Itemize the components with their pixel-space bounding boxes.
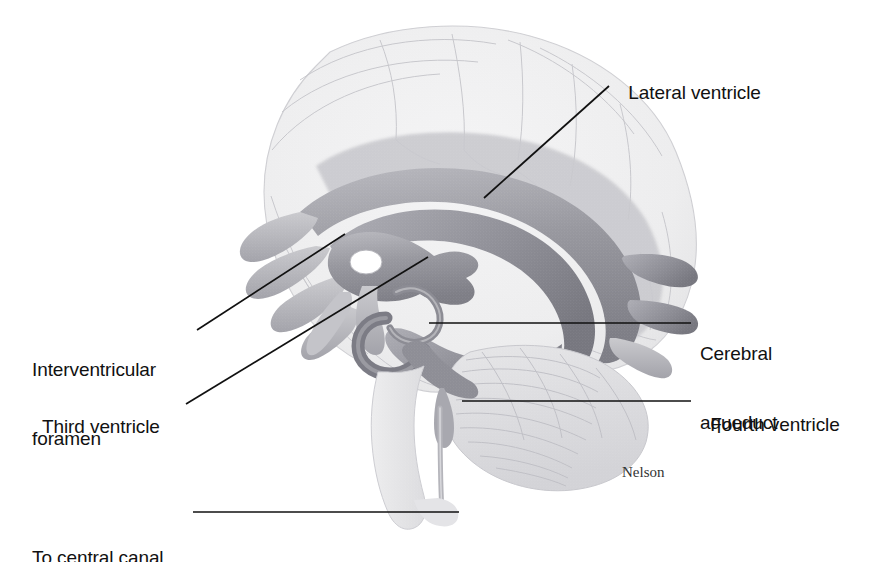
label-lateral-ventricle: Lateral ventricle [618, 58, 761, 104]
label-cerebral-aqueduct-line1: Cerebral [700, 342, 777, 365]
label-lateral-ventricle-text: Lateral ventricle [628, 82, 760, 103]
label-third-ventricle: Third ventricle [32, 392, 160, 438]
label-fourth-ventricle-text: Fourth ventricle [710, 414, 839, 435]
label-to-central-canal: To central canal of spinal cord [32, 500, 163, 562]
label-to-central-canal-line1: To central canal [32, 546, 163, 562]
interventricular-foramen-opening [350, 250, 382, 274]
label-third-ventricle-text: Third ventricle [42, 416, 160, 437]
artist-signature: Nelson [622, 464, 665, 481]
label-fourth-ventricle: Fourth ventricle [700, 390, 840, 436]
label-interventricular-foramen-line1: Interventricular [32, 358, 156, 381]
